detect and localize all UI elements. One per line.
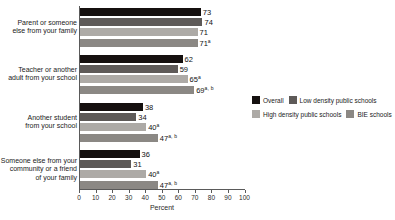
bar-row: 47a, b [80,134,158,142]
legend-label: BIE schools [357,111,391,118]
bar-row: 71 [80,28,198,36]
bar-chart: 0102030405060708090100 Percent Parent or… [0,0,395,220]
significance-note: a [157,122,160,128]
legend-item-overall: Overall [252,96,284,104]
category-label-line: Another student [0,114,77,122]
x-axis-tick-label: 50 [158,194,165,201]
bar-value-label: 69a, b [196,84,213,95]
bar-row: 40a [80,170,146,178]
bar-value-label: 47a, b [160,179,177,190]
x-axis-tick-label: 70 [191,194,198,201]
bar-row: 73 [80,8,201,16]
legend-swatch-icon [346,110,354,118]
bar-row: 47a, b [80,181,158,189]
bar-row: 38 [80,103,143,111]
bar-row: 34 [80,113,136,121]
bar-row: 74 [80,18,202,26]
category-label: Someone else from yourcommunity or a fri… [0,157,77,182]
bar [80,75,188,83]
legend-item-high-density-public-schools: High density public schools [252,110,341,118]
bar-row: 65a [80,75,188,83]
legend-item-low-density-public-schools: Low density public schools [289,96,377,104]
bar-row: 59 [80,65,178,73]
bar-value-label: 62 [185,55,193,64]
category-label: Another studentfrom your school [0,114,77,131]
bar-value-label: 31 [133,160,141,169]
category-label-line: Parent or someone [0,19,77,27]
bar [80,123,146,131]
bar-row: 36 [80,150,140,158]
bar [80,113,136,121]
bar [80,160,131,168]
legend-label: Overall [263,97,284,104]
bar [80,65,178,73]
category-label: Teacher or anotheradult from your school [0,66,77,83]
bar [80,134,158,142]
bar-value-label: 38 [145,103,153,112]
x-axis-tick-label: 20 [108,194,115,201]
bar-row: 69a, b [80,86,194,94]
bar-row: 62 [80,55,183,63]
bar [80,150,140,158]
bar-value-label: 74 [204,18,212,27]
bar-value-label: 65a [190,74,201,85]
category-label-line: Someone else from your [0,157,77,165]
bar [80,8,201,16]
bar [80,18,202,26]
x-axis-tick-label: 100 [239,194,250,201]
bar-row: 31 [80,160,131,168]
bar-group: Teacher or anotheradult from your school… [0,55,395,96]
category-label-line: adult from your school [0,74,77,82]
legend-row-1: Overall Low density public schools [252,96,395,104]
bar-value-label: 73 [203,8,211,17]
bar [80,181,158,189]
significance-note: a, b [205,84,214,90]
bar-value-label: 71a [200,37,211,48]
x-axis-title: Percent [79,204,245,211]
bar-group: Someone else from yourcommunity or a fri… [0,150,395,191]
legend-item-bie-schools: BIE schools [346,110,391,118]
bar [80,28,198,36]
legend-label: High density public schools [263,111,341,118]
x-axis-tick-label: 10 [92,194,99,201]
chart-legend: Overall Low density public schools High … [252,96,395,124]
bar-value-label: 47a, b [160,132,177,143]
significance-note: a [157,169,160,175]
legend-swatch-icon [289,96,297,104]
x-axis-tick-label: 60 [175,194,182,201]
legend-swatch-icon [252,110,260,118]
significance-note: a [198,74,201,80]
x-axis-tick-label: 30 [125,194,132,201]
bar [80,86,194,94]
bar-group: Parent or someoneelse from your family73… [0,8,395,49]
x-axis-tick-label: 90 [224,194,231,201]
bar-value-label: 36 [142,150,150,159]
category-label-line: from your school [0,122,77,130]
bar [80,103,143,111]
x-axis-tick-label: 0 [77,194,81,201]
x-axis-tick-label: 80 [208,194,215,201]
legend-swatch-icon [252,96,260,104]
bar [80,55,183,63]
category-label-line: of your family [0,174,77,182]
bar-row: 71a [80,39,198,47]
legend-row-2: High density public schools BIE schools [252,110,395,118]
significance-note: a, b [168,179,177,185]
significance-note: a, b [168,132,177,138]
bar-value-label: 34 [138,113,146,122]
bar-row: 40a [80,123,146,131]
bar [80,170,146,178]
bar-value-label: 71 [200,28,208,37]
bar-value-label: 59 [180,65,188,74]
legend-label: Low density public schools [300,97,377,104]
category-label-line: else from your family [0,27,77,35]
bar-value-label: 40a [148,122,159,133]
bar [80,39,198,47]
category-label-line: Teacher or another [0,66,77,74]
x-axis-tick-label: 40 [142,194,149,201]
category-label-line: community or a friend [0,165,77,173]
bar-value-label: 40a [148,169,159,180]
significance-note: a [208,37,211,43]
category-label: Parent or someoneelse from your family [0,19,77,36]
